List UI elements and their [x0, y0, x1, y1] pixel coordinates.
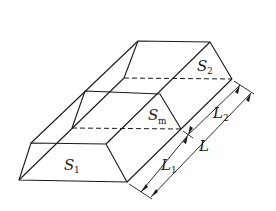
back-face-s2-hidden-base — [124, 78, 232, 79]
label-l1: L 1 — [160, 156, 177, 175]
svg-text:m: m — [158, 116, 167, 126]
svg-text:L: L — [160, 156, 171, 174]
svg-text:L: L — [198, 137, 209, 155]
middle-section-hidden-base — [72, 128, 181, 129]
svg-text:2: 2 — [207, 66, 213, 76]
svg-text:S: S — [148, 106, 158, 124]
label-s2: S 2 — [197, 57, 213, 76]
diagram-svg: S 1 S m S 2 L 1 L L 2 — [0, 0, 276, 211]
label-s1: S 1 — [64, 156, 80, 175]
svg-text:2: 2 — [223, 113, 229, 123]
svg-text:S: S — [64, 156, 74, 174]
prismatoid-diagram: S 1 S m S 2 L 1 L L 2 — [0, 0, 276, 211]
label-l: L — [198, 137, 209, 155]
svg-text:1: 1 — [171, 165, 177, 175]
label-l2: L 2 — [212, 104, 229, 123]
svg-text:L: L — [212, 104, 223, 122]
label-sm: S m — [148, 106, 167, 126]
edge-bottom-right — [127, 79, 232, 182]
svg-text:S: S — [197, 57, 207, 75]
svg-text:1: 1 — [74, 165, 80, 175]
extension-line-front — [129, 184, 152, 199]
dimension-arrows — [141, 85, 251, 197]
